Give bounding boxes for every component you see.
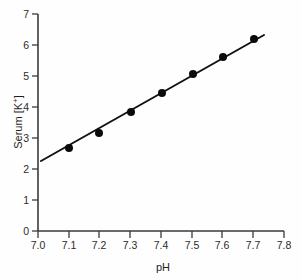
x-tick-label-1: 7.1 (62, 239, 77, 251)
y-tick-label-6: 6 (23, 39, 29, 51)
x-tick-label-0: 7.0 (31, 239, 46, 251)
scatter-plot: 0 1 2 3 4 5 6 7 7.0 7.1 7.2 7.3 7 (0, 0, 301, 280)
data-point (95, 129, 103, 137)
x-axis-ticks (38, 231, 284, 238)
x-tick-label-6: 7.6 (215, 239, 230, 251)
y-tick-label-1: 1 (23, 194, 29, 206)
y-axis-title-tail: ] (12, 95, 24, 98)
x-axis-tick-labels: 7.0 7.1 7.2 7.3 7.4 7.5 7.6 7.7 7.8 (31, 239, 292, 251)
x-tick-label-7: 7.7 (246, 239, 261, 251)
y-axis-ticks (32, 14, 38, 231)
y-tick-label-4: 4 (23, 101, 29, 113)
data-point (250, 35, 258, 43)
y-axis-tick-labels: 0 1 2 3 4 5 6 7 (23, 8, 29, 237)
x-tick-label-3: 7.3 (123, 239, 138, 251)
data-point (158, 89, 166, 97)
data-point (65, 144, 73, 152)
data-point (127, 108, 135, 116)
y-tick-label-0: 0 (23, 225, 29, 237)
y-axis-title-base: Serum [K (12, 102, 24, 149)
data-point (189, 70, 197, 78)
y-tick-label-7: 7 (23, 8, 29, 20)
y-axis-title: Serum [K+] (11, 95, 25, 149)
x-tick-label-2: 7.2 (92, 239, 107, 251)
data-point (219, 53, 227, 61)
chart-page: 0 1 2 3 4 5 6 7 7.0 7.1 7.2 7.3 7 (0, 0, 301, 280)
x-tick-label-8: 7.8 (277, 239, 292, 251)
svg-text:Serum [K+]: Serum [K+] (11, 95, 25, 149)
y-tick-label-3: 3 (23, 132, 29, 144)
x-tick-label-4: 7.4 (154, 239, 169, 251)
y-tick-label-5: 5 (23, 70, 29, 82)
x-axis-title: pH (156, 261, 170, 273)
x-tick-label-5: 7.5 (185, 239, 200, 251)
trend-line (41, 35, 264, 161)
data-points (65, 35, 258, 152)
y-tick-label-2: 2 (23, 163, 29, 175)
